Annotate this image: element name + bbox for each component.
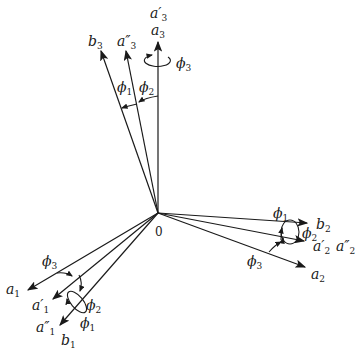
label-phi1-left: ϕ1 [80,315,95,333]
origin-label: 0 [155,225,163,239]
axis-b3 [101,51,158,213]
label-a1pp: a″1 [36,319,55,337]
label-a3: a3 [151,22,165,40]
label-phi1-top: ϕ1 [117,79,132,97]
axis-a1 [28,213,158,290]
label-b1: b1 [61,332,76,350]
label-phi3-right: ϕ3 [247,253,263,271]
axis-a3pp [126,51,158,213]
label-b2: b2 [316,216,331,234]
rotation-phi3-top [144,55,170,66]
label-a2: a2 [311,266,325,284]
label-a2p: a′2 [313,238,330,256]
rotation-phi1-left-head [67,299,68,304]
label-a3pp: a″3 [117,33,137,51]
rotation-phi2-right [281,220,299,244]
label-a2pp: a″2 [336,238,355,256]
label-a1p: a′1 [32,297,49,315]
arc-phi3-left [57,273,72,276]
label-b3: b3 [88,33,103,51]
label-phi1-right: ϕ1 [273,205,288,223]
label-a1: a1 [6,281,20,299]
arc-phi3-right [269,242,281,252]
label-phi2-left: ϕ2 [86,297,101,315]
label-a3p: a′3 [150,5,168,23]
arc-phi1-top [122,104,137,108]
axis-a1p [53,213,158,299]
label-phi2-top: ϕ2 [139,79,154,97]
rotation-diagram: a′3 a3 a″3 b3 ϕ3 ϕ1 ϕ2 0 ϕ3 a1 a′1 ϕ2 a″… [0,0,360,358]
label-phi3-top: ϕ3 [176,55,192,73]
label-phi3-left: ϕ3 [42,253,58,271]
